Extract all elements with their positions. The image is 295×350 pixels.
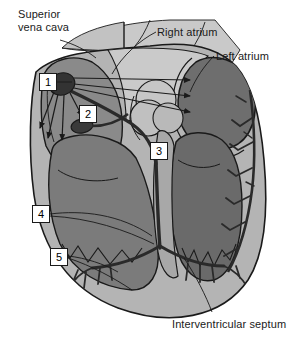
left-ventricle-chamber (170, 133, 242, 281)
label-left-atrium: Left atrium (216, 50, 269, 63)
label-interventricular-septum: Interventricular septum (172, 318, 286, 331)
numbered-label-1: 1 (39, 73, 57, 91)
numbered-label-4: 4 (32, 205, 50, 223)
label-right-atrium: Right atrium (157, 26, 218, 39)
numbered-label-2: 2 (79, 105, 97, 123)
numbered-label-3: 3 (150, 142, 168, 160)
numbered-label-5: 5 (50, 248, 68, 266)
heart-conduction-diagram: Superior vena cava Right atrium Left atr… (0, 0, 295, 350)
superior-vena-cava-shape (62, 22, 124, 52)
label-superior-vena-cava: Superior vena cava (18, 8, 69, 33)
